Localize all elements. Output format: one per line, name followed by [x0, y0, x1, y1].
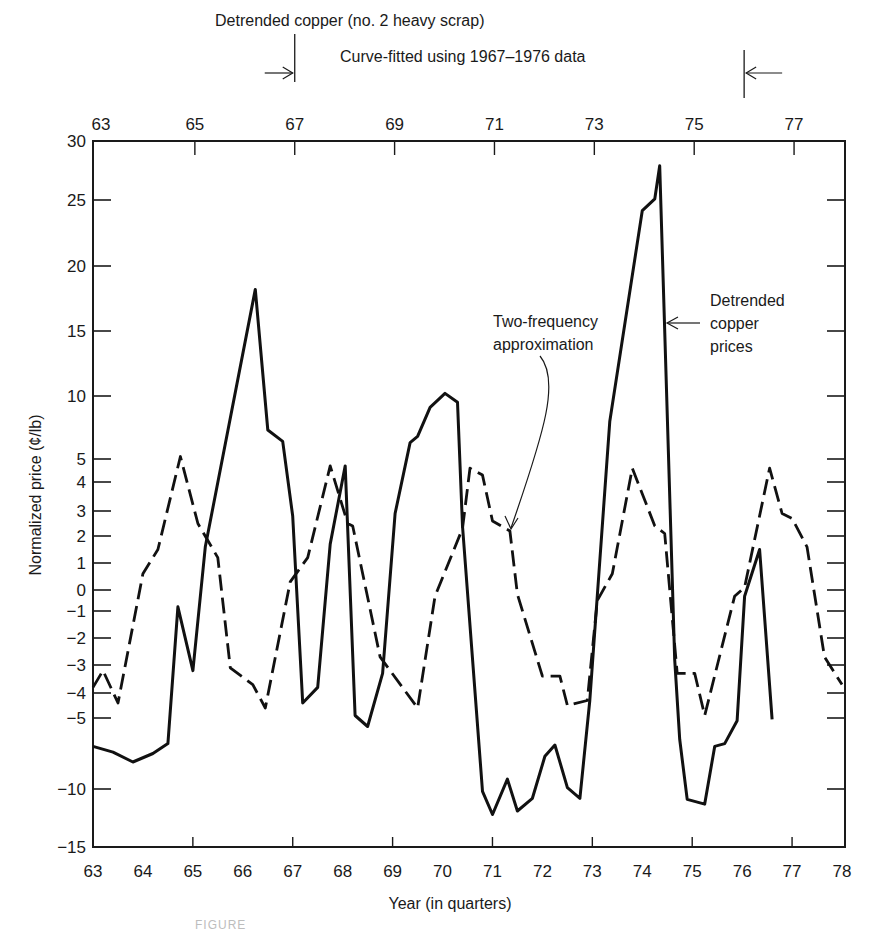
series-detrended-copper-prices — [93, 166, 772, 815]
x-tick-label-bottom: 73 — [583, 862, 602, 881]
x-axis-bottom-ticks: 63646566676869707172737475767778 — [84, 837, 852, 881]
y-axis-title: Normalized price (¢/lb) — [27, 415, 44, 576]
y-tick-label: 20 — [67, 257, 86, 276]
y-tick-label: 3 — [77, 502, 86, 521]
y-tick-label: 4 — [77, 473, 86, 492]
x-tick-label-bottom: 68 — [333, 862, 352, 881]
y-tick-label: 10 — [67, 387, 86, 406]
x-tick-label-bottom: 66 — [233, 862, 252, 881]
y-tick-label: −10 — [57, 780, 86, 799]
y-tick-label: 0 — [77, 581, 86, 600]
y-tick-label: 25 — [67, 191, 86, 210]
chart-title: Detrended copper (no. 2 heavy scrap) — [215, 12, 484, 29]
y-tick-label: 5 — [77, 450, 86, 469]
y-tick-label: 30 — [67, 132, 86, 151]
y-tick-label: −2 — [67, 629, 86, 648]
plot-frame-rect — [93, 141, 845, 847]
x-tick-label-top: 71 — [485, 115, 504, 134]
annotation-detrended: Detrended copper prices — [667, 292, 785, 355]
line-chart: Detrended copper (no. 2 heavy scrap) Cur… — [0, 0, 873, 933]
x-tick-label-top: 77 — [785, 115, 804, 134]
y-tick-label: 15 — [67, 322, 86, 341]
x-tick-label-top: 67 — [285, 115, 304, 134]
figure-caption: FIGURE — [195, 918, 246, 932]
x-tick-label-bottom: 67 — [283, 862, 302, 881]
x-tick-label-bottom: 77 — [783, 862, 802, 881]
x-tick-label-bottom: 75 — [683, 862, 702, 881]
plot-frame — [93, 141, 845, 847]
annotation-two-frequency-arrow — [511, 356, 549, 528]
x-tick-label-bottom: 74 — [633, 862, 652, 881]
x-tick-label-top: 65 — [185, 115, 204, 134]
x-axis-title: Year (in quarters) — [388, 895, 511, 912]
x-tick-label-bottom: 63 — [84, 862, 103, 881]
x-tick-label-bottom: 65 — [183, 862, 202, 881]
y-tick-label: −5 — [67, 709, 86, 728]
y-tick-label: −3 — [67, 656, 86, 675]
x-tick-label-bottom: 78 — [833, 862, 852, 881]
y-axis-ticks: 3025201510543210−1−2−3−4−5−10−15 — [57, 132, 845, 857]
y-tick-label: −4 — [67, 684, 86, 703]
y-tick-label: 1 — [77, 554, 86, 573]
y-tick-label: 2 — [77, 527, 86, 546]
chart-figure: Detrended copper (no. 2 heavy scrap) Cur… — [0, 0, 873, 933]
x-tick-label-bottom: 76 — [733, 862, 752, 881]
annotation-detrended-line2: copper — [710, 315, 760, 332]
x-tick-label-bottom: 69 — [383, 862, 402, 881]
annotation-detrended-line1: Detrended — [710, 292, 785, 309]
annotation-detrended-line3: prices — [710, 338, 753, 355]
annotation-two-frequency: Two-frequency approximation — [493, 313, 598, 529]
x-tick-label-top: 63 — [92, 115, 111, 134]
x-tick-label-top: 73 — [585, 115, 604, 134]
data-series — [93, 166, 842, 815]
y-tick-label: −15 — [57, 838, 86, 857]
x-tick-label-bottom: 64 — [133, 862, 152, 881]
annotation-two-frequency-line2: approximation — [493, 336, 594, 353]
fit-range-markers — [265, 34, 782, 98]
x-tick-label-top: 69 — [385, 115, 404, 134]
x-tick-label-bottom: 70 — [433, 862, 452, 881]
x-tick-label-top: 75 — [685, 115, 704, 134]
x-tick-label-bottom: 71 — [483, 862, 502, 881]
x-tick-label-bottom: 72 — [533, 862, 552, 881]
y-tick-label: −1 — [67, 602, 86, 621]
annotation-two-frequency-line1: Two-frequency — [493, 313, 598, 330]
fit-range-label: Curve-fitted using 1967–1976 data — [340, 48, 586, 65]
x-axis-top-ticks: 6365676971737577 — [92, 115, 804, 155]
